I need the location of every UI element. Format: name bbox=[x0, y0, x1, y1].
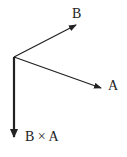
label-b: B bbox=[72, 7, 81, 21]
label-b-cross-a: B × A bbox=[25, 130, 59, 144]
vector-a-arrow bbox=[14, 57, 101, 88]
vector-b-arrow bbox=[14, 25, 76, 57]
label-a: A bbox=[108, 79, 118, 93]
